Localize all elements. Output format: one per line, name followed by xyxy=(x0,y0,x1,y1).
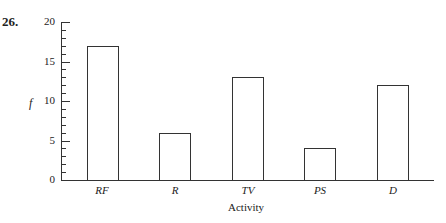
y-axis-label: f xyxy=(29,96,32,111)
y-tick xyxy=(61,85,66,86)
y-tick-label: 5 xyxy=(35,134,55,146)
bar-rf xyxy=(87,46,119,180)
y-tick xyxy=(61,156,66,157)
y-tick xyxy=(61,30,66,31)
y-tick xyxy=(61,22,70,23)
y-tick-label: 10 xyxy=(35,94,55,106)
x-axis-label: Activity xyxy=(228,201,264,213)
y-tick xyxy=(61,46,66,47)
y-tick xyxy=(61,125,66,126)
y-tick xyxy=(61,93,66,94)
x-tick-label: R xyxy=(155,184,195,196)
x-tick-label: PS xyxy=(300,184,340,196)
x-tick-label: RF xyxy=(82,184,122,196)
y-tick xyxy=(61,141,70,142)
y-tick-label: 20 xyxy=(35,15,55,27)
y-tick xyxy=(61,38,66,39)
y-tick-label: 0 xyxy=(35,173,55,185)
y-tick xyxy=(61,117,66,118)
y-tick xyxy=(61,133,66,134)
y-tick-label: 15 xyxy=(35,55,55,67)
y-tick xyxy=(61,180,70,181)
y-tick xyxy=(61,101,70,102)
y-tick xyxy=(61,69,66,70)
bar-tv xyxy=(232,77,264,180)
y-tick xyxy=(61,148,66,149)
x-axis xyxy=(61,180,434,181)
bar-r xyxy=(159,133,191,180)
y-tick xyxy=(61,54,66,55)
y-tick xyxy=(61,172,66,173)
x-tick-label: D xyxy=(373,184,413,196)
bar-d xyxy=(377,85,409,180)
y-tick xyxy=(61,77,66,78)
y-tick xyxy=(61,109,66,110)
bar-ps xyxy=(304,148,336,180)
y-tick xyxy=(61,62,70,63)
bar-chart: 26. f 0 5 10 15 20 RF R TV PS D Activity xyxy=(0,0,446,223)
problem-number: 26. xyxy=(2,14,18,30)
x-tick-label: TV xyxy=(228,184,268,196)
y-tick xyxy=(61,164,66,165)
